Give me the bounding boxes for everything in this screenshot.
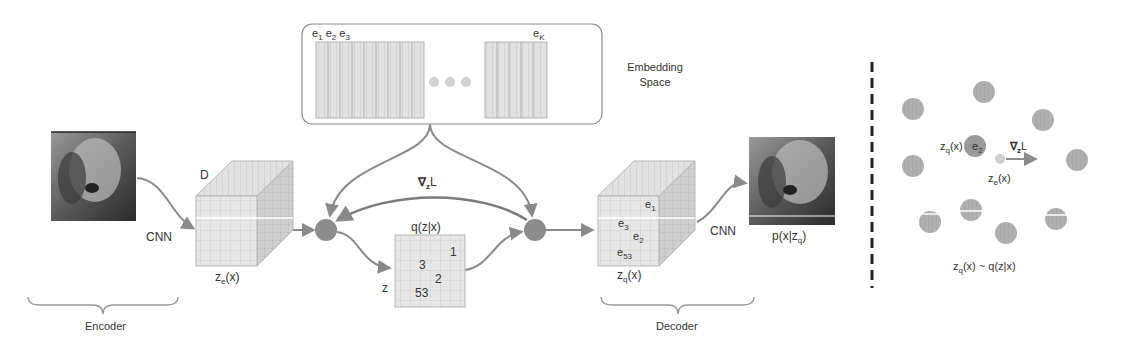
encoder-brace-label: Encoder (85, 320, 126, 332)
z-label: z (382, 281, 388, 295)
decoder-brace-label: Decoder (656, 320, 698, 332)
reconstruction-label: p(x|zq) (772, 229, 806, 243)
decoder-code-e1: e1 (645, 198, 656, 210)
grid-value-53: 53 (415, 286, 428, 300)
grid-value-1: 1 (450, 245, 457, 259)
encoder-brace (28, 297, 178, 314)
zq-point-label: zq(x) (940, 140, 963, 152)
depth-label: D (200, 168, 209, 182)
embedding-vector-labels: e1 e2 e3 (312, 27, 350, 39)
decoder-input-label: zq(x) (617, 268, 641, 282)
right-gradient-label: ∇zL (1010, 140, 1027, 153)
posterior-title: q(z|x) (411, 220, 441, 234)
encoder-output-label: ze(x) (215, 270, 239, 284)
gradient-label: ∇zL (418, 175, 437, 189)
decoder-code-e53: e53 (617, 246, 632, 258)
grid-value-2: 2 (435, 272, 442, 286)
encoder-cnn-label: CNN (146, 230, 172, 244)
embedding-space-title: Embedding Space (620, 60, 690, 90)
encoder-cube (196, 161, 293, 266)
decoder-cube (598, 161, 695, 266)
reconstruction-image (749, 137, 835, 225)
decoder-cnn-label: CNN (710, 224, 736, 238)
vqvae-diagram-canvas (0, 0, 1135, 348)
decoder-code-e3: e3 (618, 217, 629, 229)
ze-point-label: ze(x) (988, 172, 1011, 184)
grid-value-3: 3 (419, 258, 426, 272)
right-panel-caption: zq(x) ~ q(z|x) (953, 260, 1016, 272)
decoder-brace (601, 297, 754, 314)
quantize-node-right (524, 219, 546, 241)
input-image (51, 132, 136, 221)
decoder-code-e2: e2 (633, 230, 644, 242)
encoder-output-point (995, 154, 1005, 164)
embedding-last-label: eK (533, 27, 544, 39)
quantize-node-left (315, 219, 337, 241)
embedding-points (902, 81, 1088, 244)
e2-point-label: e2 (972, 140, 983, 152)
